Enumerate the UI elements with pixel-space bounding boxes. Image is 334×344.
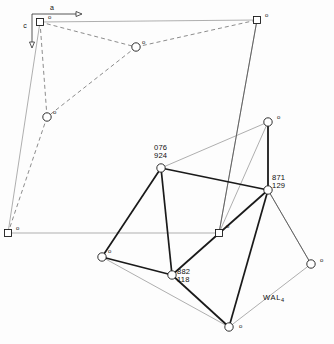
y-axis-arrow-head — [30, 42, 35, 48]
bold-edge-n-076-to-n-882 — [161, 168, 172, 275]
station-marker-n-sq-tl[interactable] — [37, 19, 44, 26]
bold-edge-n-871-to-n-bottom — [229, 190, 268, 327]
dashed-edge-n-sq-tl-to-n-mid-left — [40, 22, 47, 117]
origin-mark-1: o — [265, 12, 269, 18]
station-marker-n-mid-left[interactable] — [43, 113, 51, 121]
y-axis-label: c — [23, 22, 27, 29]
medium-edge-n-sq-tr-to-n-sq-br — [219, 20, 257, 233]
station-marker-n-sq-tr[interactable] — [254, 17, 261, 24]
bold-edge-n-076-to-n-left-lo — [102, 168, 161, 257]
bold-edge-n-076-to-n-871 — [161, 168, 268, 190]
thin-edge-n-right-up-to-n-076 — [161, 122, 268, 168]
origin-mark-2: o — [142, 39, 146, 45]
dashed-edge-n-sq-tl-to-n-mid-top — [40, 22, 136, 47]
point-label-group: 076924871129882118 — [154, 143, 285, 284]
area-label-subscript: 4 — [281, 297, 285, 303]
origin-mark-9: o — [108, 248, 112, 254]
thin-edge-n-sq-tl-to-n-sq-tr — [40, 20, 257, 22]
x-axis-arrow-head — [76, 12, 82, 17]
x-axis-label: a — [50, 4, 54, 11]
bold-edge-group — [102, 122, 268, 327]
dashed-edge-n-mid-top-to-n-mid-left — [47, 47, 136, 117]
origin-mark-7: o — [320, 257, 324, 263]
label-871-129: 871129 — [272, 173, 285, 190]
label-871-129-line2: 129 — [272, 181, 285, 190]
station-marker-n-sq-bl[interactable] — [5, 230, 12, 237]
station-marker-n-right-lo[interactable] — [307, 260, 315, 268]
dashed-edge-group — [8, 20, 257, 233]
label-882-118-line2: 118 — [177, 275, 190, 284]
thin-edge-n-sq-tl-to-n-sq-bl — [8, 22, 40, 233]
area-label-main: WAL — [263, 293, 281, 302]
thin-edge-n-left-lo-to-n-bottom — [102, 257, 229, 327]
station-marker-n-bottom[interactable] — [225, 323, 233, 331]
thin-edge-group — [8, 20, 311, 327]
station-marker-n-882[interactable] — [168, 271, 176, 279]
station-marker-n-076[interactable] — [157, 164, 165, 172]
network-diagram: a c oooooooooo 076924871129882118 WAL4 — [0, 0, 334, 344]
label-076-924-line2: 924 — [154, 151, 167, 160]
dashed-edge-n-mid-left-to-n-sq-bl — [8, 117, 47, 233]
station-marker-n-left-lo[interactable] — [98, 253, 106, 261]
area-label-group: WAL4 — [263, 293, 285, 303]
dashed-edge-n-mid-top-to-n-sq-tr — [136, 20, 257, 47]
diagram-canvas: a c oooooooooo 076924871129882118 WAL4 — [0, 0, 334, 344]
station-marker-n-right-up[interactable] — [264, 118, 272, 126]
station-marker-n-sq-br[interactable] — [216, 230, 223, 237]
area-label-text: WAL4 — [263, 293, 285, 303]
origin-mark-0: o — [48, 14, 52, 20]
label-882-118: 882118 — [177, 267, 190, 284]
station-marker-n-mid-top[interactable] — [132, 43, 140, 51]
bold-edge-n-882-to-n-left-lo — [102, 257, 172, 275]
axis-indicator-group: a c — [23, 4, 82, 48]
origin-mark-8: o — [239, 323, 243, 329]
medium-edge-n-871-to-n-right-lo — [268, 190, 311, 264]
station-marker-n-871[interactable] — [264, 186, 272, 194]
origin-mark-4: o — [16, 225, 20, 231]
origin-mark-6: o — [277, 114, 281, 120]
label-076-924: 076924 — [154, 143, 167, 160]
